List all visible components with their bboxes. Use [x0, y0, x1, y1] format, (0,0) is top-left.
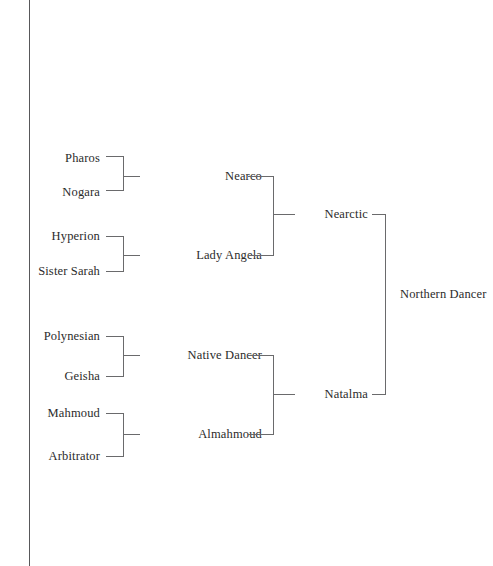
- bracket-arm-mahmoud: [106, 413, 124, 414]
- bracket-arm-sister-sarah: [106, 271, 124, 272]
- pedigree-node-pharos: Pharos: [65, 152, 100, 165]
- bracket-arm-almahmoud: [248, 434, 274, 435]
- page-rule-line: [29, 0, 30, 566]
- pedigree-node-hyperion: Hyperion: [52, 230, 100, 243]
- pedigree-node-sister-sarah: Sister Sarah: [38, 265, 100, 278]
- bracket-spine-lady-angela: [123, 236, 124, 272]
- bracket-arm-arbitrator: [106, 456, 124, 457]
- bracket-spine-northern-dancer: [385, 214, 386, 395]
- bracket-stub-natalma: [273, 394, 295, 395]
- bracket-arm-nearctic-final: [372, 214, 386, 215]
- pedigree-node-nearctic: Nearctic: [324, 208, 368, 221]
- pedigree-node-polynesian: Polynesian: [44, 330, 100, 343]
- bracket-spine-nearctic: [273, 176, 274, 256]
- bracket-arm-native-dancer: [248, 355, 274, 356]
- bracket-spine-native-dancer: [123, 336, 124, 377]
- bracket-stub-nearctic: [273, 214, 295, 215]
- bracket-spine-natalma: [273, 355, 274, 435]
- bracket-stub-native-dancer: [123, 355, 140, 356]
- bracket-spine-nearco: [123, 156, 124, 191]
- pedigree-node-geisha: Geisha: [64, 370, 100, 383]
- pedigree-node-northern-dancer: Northern Dancer: [400, 288, 487, 301]
- bracket-arm-lady-angela: [248, 255, 274, 256]
- bracket-stub-nearco: [123, 176, 140, 177]
- bracket-arm-nogara: [106, 190, 124, 191]
- bracket-arm-hyperion: [106, 236, 124, 237]
- pedigree-node-natalma: Natalma: [325, 388, 368, 401]
- pedigree-chart: Pharos Nogara Hyperion Sister Sarah Poly…: [0, 0, 493, 566]
- bracket-stub-almahmoud: [123, 434, 140, 435]
- pedigree-node-nogara: Nogara: [62, 186, 100, 199]
- pedigree-node-arbitrator: Arbitrator: [49, 450, 100, 463]
- bracket-stub-lady-angela: [123, 255, 140, 256]
- bracket-arm-pharos: [106, 156, 124, 157]
- bracket-arm-nearco: [248, 176, 274, 177]
- bracket-arm-natalma-final: [372, 394, 386, 395]
- bracket-spine-almahmoud: [123, 413, 124, 457]
- bracket-arm-geisha: [106, 376, 124, 377]
- pedigree-node-mahmoud: Mahmoud: [48, 407, 100, 420]
- bracket-arm-polynesian: [106, 336, 124, 337]
